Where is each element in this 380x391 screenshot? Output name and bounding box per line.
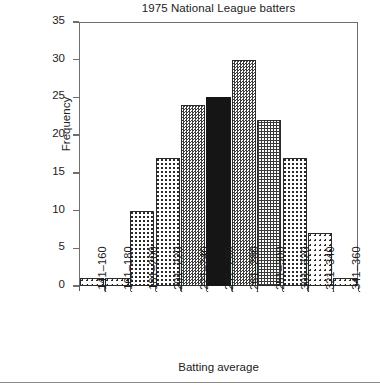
y-tick-mark bbox=[73, 134, 79, 135]
x-tick-label: .261–280 bbox=[248, 246, 260, 293]
y-tick-label: 10 bbox=[52, 203, 65, 215]
x-tick-label: .161–180 bbox=[122, 246, 134, 293]
histogram-figure: 1975 National League batters Frequency 0… bbox=[0, 0, 380, 391]
y-tick-label: 0 bbox=[59, 278, 65, 290]
chart-title: 1975 National League batters bbox=[79, 2, 358, 14]
footer-divider bbox=[0, 382, 380, 383]
y-tick-mark bbox=[73, 21, 79, 22]
x-tick-label: .281–300 bbox=[274, 246, 286, 293]
y-tick-mark bbox=[73, 172, 79, 173]
y-tick-label: 20 bbox=[52, 127, 65, 139]
y-tick-mark bbox=[73, 248, 79, 249]
x-tick-label: .141–160 bbox=[96, 246, 108, 293]
x-tick-label: .321–340 bbox=[324, 246, 336, 293]
x-axis-label: Batting average bbox=[79, 361, 358, 373]
x-tick-label: .201–220 bbox=[172, 246, 184, 293]
y-tick-label: 30 bbox=[52, 52, 65, 64]
y-tick-label: 5 bbox=[59, 240, 65, 252]
x-tick-label: .221–240 bbox=[198, 246, 210, 293]
y-tick-mark bbox=[73, 210, 79, 211]
x-tick-mark bbox=[79, 286, 80, 291]
x-tick-label: .181–200 bbox=[147, 246, 159, 293]
x-tick-label: .341–360 bbox=[350, 246, 362, 293]
y-axis-label: Frequency bbox=[60, 44, 72, 204]
x-tick-label: .241–260 bbox=[223, 246, 235, 293]
y-tick-label: 35 bbox=[52, 14, 65, 26]
y-tick-mark bbox=[73, 59, 79, 60]
y-tick-label: 15 bbox=[52, 165, 65, 177]
y-tick-label: 25 bbox=[52, 89, 65, 101]
y-tick-mark bbox=[73, 97, 79, 98]
x-tick-label: .301–320 bbox=[299, 246, 311, 293]
